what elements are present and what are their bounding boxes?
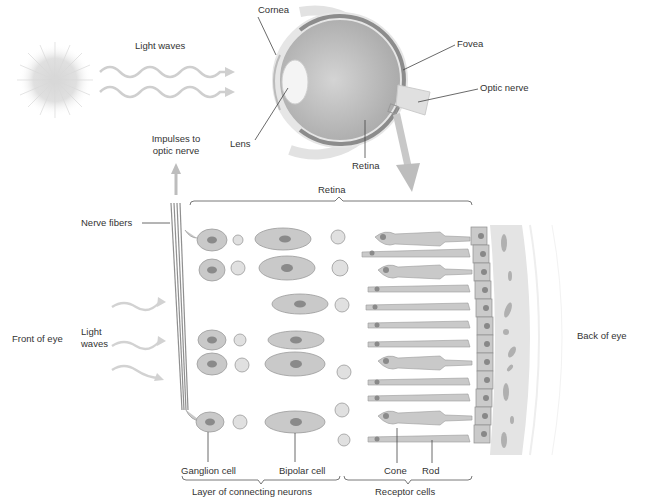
neuron-rows: [185, 228, 351, 446]
label-optic-nerve: Optic nerve: [480, 82, 529, 94]
label-impulses-line1: Impulses to: [146, 133, 206, 145]
label-retina-bracket: Retina: [318, 184, 345, 196]
label-front-of-eye: Front of eye: [12, 333, 63, 345]
label-ganglion-cell: Ganglion cell: [181, 465, 236, 477]
photoreceptors: [362, 232, 472, 442]
impulse-arrow-icon: [171, 163, 181, 195]
nerve-fibers: [171, 203, 188, 410]
light-wave-arrow-icon: [100, 67, 225, 97]
label-rod: Rod: [422, 465, 439, 477]
label-cone: Cone: [384, 465, 407, 477]
label-light-waves-top: Light waves: [135, 40, 185, 52]
bottom-leader-lines: [208, 428, 432, 463]
label-back-of-eye: Back of eye: [577, 330, 627, 342]
eye-retina-diagram: Cornea Light waves Fovea Optic nerve Len…: [0, 0, 646, 500]
bottom-brackets: [182, 476, 472, 484]
light-wave-arrows-left: [112, 302, 160, 378]
label-light-waves-left-line2: waves: [81, 338, 108, 350]
label-impulses-line2: optic nerve: [146, 145, 206, 157]
label-nerve-fibers: Nerve fibers: [81, 217, 132, 229]
label-cornea: Cornea: [258, 4, 289, 16]
label-bipolar-cell: Bipolar cell: [279, 465, 325, 477]
label-retina-eye: Retina: [352, 160, 379, 172]
label-light-waves-left: Light waves: [81, 326, 108, 350]
sun-icon: [17, 42, 93, 118]
label-lens: Lens: [230, 138, 251, 150]
label-layer-connecting-neurons: Layer of connecting neurons: [192, 486, 312, 498]
diagram-graphics: [0, 0, 646, 500]
label-light-waves-left-line1: Light: [81, 326, 108, 338]
label-fovea: Fovea: [457, 38, 483, 50]
label-receptor-cells: Receptor cells: [375, 486, 435, 498]
magnify-arrow-icon: [393, 113, 420, 192]
label-impulses: Impulses to optic nerve: [146, 133, 206, 157]
eyeball-icon: [274, 10, 430, 154]
pigment-epithelium: [471, 227, 493, 443]
choroid-layer: [490, 225, 530, 455]
